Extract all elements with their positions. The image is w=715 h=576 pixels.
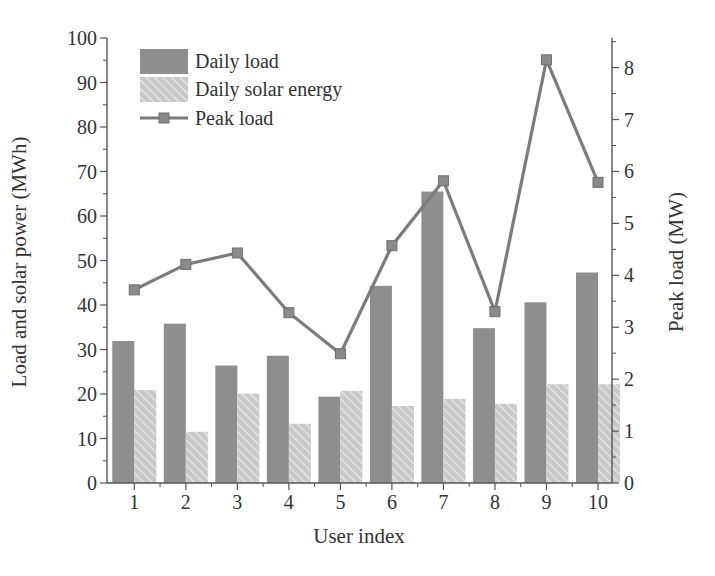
y-tick-label-right: 7 <box>624 109 634 131</box>
y-tick-label-left: 40 <box>77 294 97 316</box>
y-tick-label-left: 70 <box>77 161 97 183</box>
y-tick-label-right: 5 <box>624 212 634 234</box>
bar-daily-load <box>524 302 546 483</box>
x-tick-label: 6 <box>387 491 397 513</box>
legend-label-daily-load: Daily load <box>195 50 279 73</box>
x-tick-label: 8 <box>490 491 500 513</box>
bar-daily-solar <box>392 406 414 483</box>
y-tick-label-left: 0 <box>87 472 97 494</box>
x-tick-label: 7 <box>438 491 448 513</box>
bar-daily-load <box>370 286 392 483</box>
y-tick-label-right: 3 <box>624 316 634 338</box>
y-tick-label-left: 50 <box>77 250 97 272</box>
x-tick-label: 5 <box>335 491 345 513</box>
y-axis-label-left: Load and solar power (MWh) <box>7 137 31 388</box>
peak-load-marker <box>232 248 242 258</box>
y-tick-label-left: 100 <box>67 27 97 49</box>
legend: Daily loadDaily solar energyPeak load <box>140 49 342 129</box>
y-tick-label-right: 1 <box>624 420 634 442</box>
y-tick-label-right: 4 <box>624 264 634 286</box>
x-axis-label: User index <box>313 524 405 548</box>
bar-daily-load <box>267 356 289 483</box>
bar-daily-load <box>164 324 186 483</box>
legend-marker-peak-load <box>159 113 169 123</box>
x-tick-label: 10 <box>588 491 608 513</box>
bar-daily-load <box>421 192 443 483</box>
peak-load-marker <box>438 176 448 186</box>
bar-daily-solar <box>598 384 620 483</box>
legend-label-peak-load: Peak load <box>195 107 273 129</box>
x-tick-label: 4 <box>284 491 294 513</box>
bar-daily-load <box>318 397 340 483</box>
bar-daily-solar <box>546 384 568 483</box>
y-tick-label-left: 20 <box>77 383 97 405</box>
y-tick-label-left: 60 <box>77 205 97 227</box>
y-tick-label-right: 8 <box>624 57 634 79</box>
y-tick-label-right: 6 <box>624 160 634 182</box>
bar-daily-solar <box>495 404 517 483</box>
y-tick-label-right: 2 <box>624 368 634 390</box>
bars-layer <box>112 192 620 483</box>
legend-swatch-daily-solar <box>140 77 188 102</box>
bar-daily-load <box>473 328 495 483</box>
bar-daily-solar <box>289 424 311 483</box>
peak-load-marker <box>335 349 345 359</box>
peak-load-marker <box>541 55 551 65</box>
x-tick-label: 1 <box>129 491 139 513</box>
bar-daily-load <box>576 273 598 483</box>
peak-load-marker <box>387 241 397 251</box>
x-tick-label: 2 <box>181 491 191 513</box>
y-axis-label-right: Peak load (MW) <box>664 192 688 332</box>
chart: 0102030405060708090100012345678123456789… <box>0 0 715 576</box>
y-tick-label-left: 30 <box>77 339 97 361</box>
peak-load-marker <box>284 308 294 318</box>
bar-daily-load <box>112 341 134 483</box>
y-tick-label-left: 10 <box>77 428 97 450</box>
bar-daily-solar <box>186 432 208 483</box>
peak-load-marker <box>129 285 139 295</box>
x-tick-label: 9 <box>541 491 551 513</box>
bar-daily-load <box>215 366 237 483</box>
peak-load-marker <box>490 307 500 317</box>
x-tick-label: 3 <box>232 491 242 513</box>
chart-canvas: 0102030405060708090100012345678123456789… <box>0 0 715 576</box>
peak-load-marker <box>593 177 603 187</box>
y-tick-label-left: 90 <box>77 72 97 94</box>
y-tick-label-right: 0 <box>624 472 634 494</box>
bar-daily-solar <box>340 391 362 483</box>
bar-daily-solar <box>443 399 465 483</box>
peak-load-marker <box>181 259 191 269</box>
y-tick-label-left: 80 <box>77 116 97 138</box>
legend-label-daily-solar: Daily solar energy <box>195 78 342 101</box>
legend-swatch-daily-load <box>140 49 188 74</box>
bar-daily-solar <box>134 390 156 483</box>
bar-daily-solar <box>237 394 259 483</box>
